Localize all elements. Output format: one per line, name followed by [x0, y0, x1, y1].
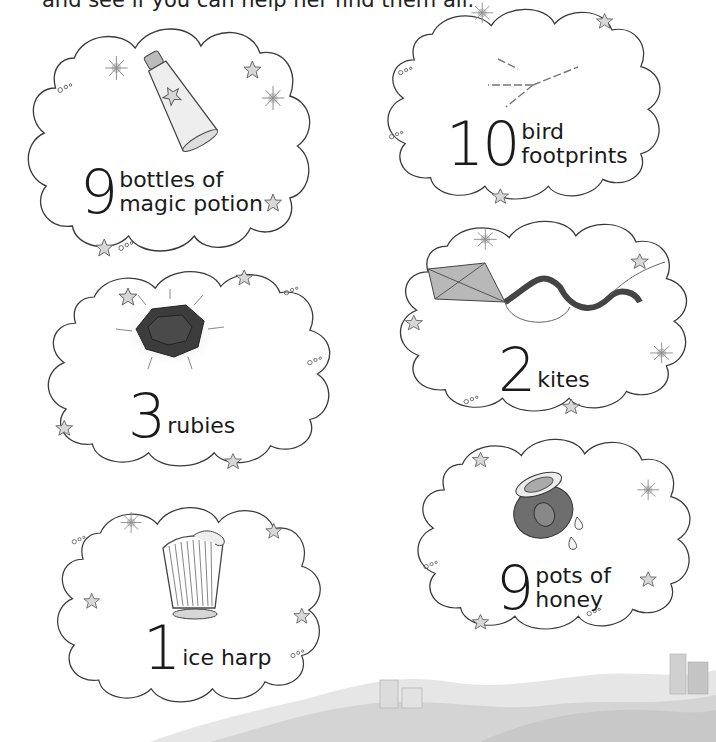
item-label-potion: 9 bottles of magic potion: [80, 166, 263, 218]
item-description: rubies: [167, 414, 235, 438]
cloud-rubies: 3 rubies: [38, 262, 338, 472]
cloud-potion: 9 bottles of magic potion: [18, 18, 318, 258]
ruby-gem-icon: [108, 287, 228, 377]
item-description: bottles of magic potion: [119, 168, 263, 216]
item-description: pots of honey: [535, 564, 611, 612]
item-label-rubies: 3 rubies: [128, 390, 235, 442]
harp-icon: [153, 528, 228, 623]
item-label-kites: 2 kites: [498, 344, 590, 396]
item-count: 2: [498, 344, 534, 396]
bird-footprint-icon: [478, 55, 588, 115]
item-count: 10: [446, 118, 518, 170]
landscape-hills: [150, 650, 716, 742]
item-description: kites: [537, 368, 589, 392]
honey-pot-icon: [503, 465, 593, 560]
item-count: 3: [128, 390, 164, 442]
item-count: 9: [496, 562, 532, 614]
item-description: bird footprints: [521, 120, 627, 168]
cloud-footprints: 10 bird footprints: [378, 0, 668, 205]
item-count: 9: [80, 166, 116, 218]
potion-bottle-icon: [138, 38, 218, 158]
cloud-honey: 9 pots of honey: [408, 430, 698, 635]
kite-icon: [420, 257, 670, 332]
item-label-footprints: 10 bird footprints: [446, 118, 628, 170]
cloud-kites: 2 kites: [390, 212, 695, 417]
item-label-honey: 9 pots of honey: [496, 562, 611, 614]
